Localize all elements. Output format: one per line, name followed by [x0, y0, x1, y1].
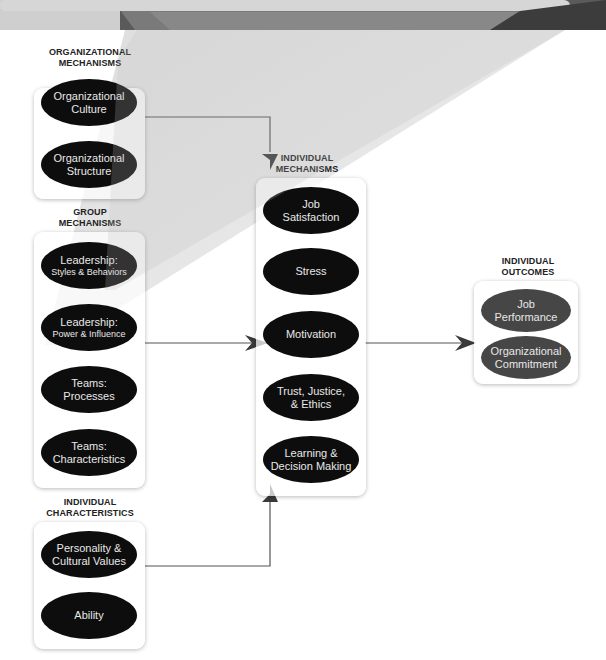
node-label: Ability: [74, 609, 103, 622]
node-label: Job: [302, 198, 320, 211]
top-banner: [0, 0, 606, 32]
node-organizational-commitment[interactable]: Organizational Commitment: [481, 336, 571, 379]
title-line: OUTCOMES: [502, 267, 555, 277]
node-label: Job: [517, 298, 535, 311]
node-label: & Ethics: [291, 398, 331, 411]
node-learning-decision-making[interactable]: Learning & Decision Making: [263, 436, 359, 483]
node-label: Cultural Values: [52, 555, 126, 568]
node-label: Teams:: [71, 377, 106, 390]
node-organizational-culture[interactable]: Organizational Culture: [41, 79, 137, 126]
node-label: Styles & Behaviors: [51, 267, 127, 278]
node-label: Organizational: [491, 345, 562, 358]
title-line: MECHANISMS: [276, 164, 339, 174]
node-label: Structure: [67, 165, 112, 178]
node-job-performance[interactable]: Job Performance: [481, 289, 571, 332]
title-line: GROUP: [73, 207, 107, 217]
node-label: Characteristics: [53, 453, 126, 466]
node-label: Processes: [63, 390, 114, 403]
title-line: ORGANIZATIONAL: [49, 47, 131, 57]
node-label: Stress: [295, 265, 326, 278]
node-label: Leadership:: [60, 316, 118, 329]
node-label: Power & Influence: [52, 329, 125, 340]
node-job-satisfaction[interactable]: Job Satisfaction: [263, 187, 359, 234]
node-label: Organizational: [54, 152, 125, 165]
node-label: Decision Making: [271, 460, 352, 473]
title-line: INDIVIDUAL: [281, 153, 334, 163]
section-title-individual-outcomes: INDIVIDUAL OUTCOMES: [488, 256, 568, 278]
arrow-right-icon: [455, 335, 476, 351]
node-label: Leadership:: [60, 254, 118, 267]
title-line: MECHANISMS: [59, 218, 122, 228]
node-label: Personality &: [57, 542, 122, 555]
node-label: Teams:: [71, 440, 106, 453]
node-label: Trust, Justice,: [277, 385, 345, 398]
section-title-individual-characteristics: INDIVIDUAL CHARACTERISTICS: [30, 497, 150, 519]
section-title-group-mechanisms: GROUP MECHANISMS: [30, 207, 150, 229]
node-ability[interactable]: Ability: [41, 592, 137, 639]
node-label: Motivation: [286, 328, 336, 341]
node-teams-characteristics[interactable]: Teams: Characteristics: [41, 429, 137, 476]
section-title-individual-mechanisms: INDIVIDUAL MECHANISMS: [272, 153, 342, 175]
node-trust-justice-ethics[interactable]: Trust, Justice, & Ethics: [263, 374, 359, 421]
node-teams-processes[interactable]: Teams: Processes: [41, 366, 137, 413]
node-label: Satisfaction: [283, 211, 340, 224]
title-line: CHARACTERISTICS: [46, 508, 134, 518]
section-title-organizational-mechanisms: ORGANIZATIONAL MECHANISMS: [30, 47, 150, 69]
node-organizational-structure[interactable]: Organizational Structure: [41, 141, 137, 188]
node-leadership-power-influence[interactable]: Leadership: Power & Influence: [41, 304, 137, 351]
node-label: Performance: [495, 311, 558, 324]
node-leadership-styles-behaviors[interactable]: Leadership: Styles & Behaviors: [41, 242, 137, 289]
node-label: Commitment: [495, 358, 557, 371]
node-label: Organizational: [54, 90, 125, 103]
node-motivation[interactable]: Motivation: [263, 311, 359, 358]
node-personality-cultural-values[interactable]: Personality & Cultural Values: [41, 531, 137, 578]
title-line: INDIVIDUAL: [502, 256, 555, 266]
node-label: Culture: [71, 103, 106, 116]
node-stress[interactable]: Stress: [263, 248, 359, 295]
title-line: MECHANISMS: [59, 58, 122, 68]
title-line: INDIVIDUAL: [64, 497, 117, 507]
node-label: Learning &: [284, 447, 337, 460]
